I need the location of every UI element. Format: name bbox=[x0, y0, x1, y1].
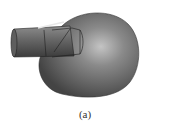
figure-caption: (a) bbox=[0, 108, 170, 120]
figure: (a) bbox=[0, 0, 170, 129]
cylinder-end bbox=[11, 29, 17, 57]
